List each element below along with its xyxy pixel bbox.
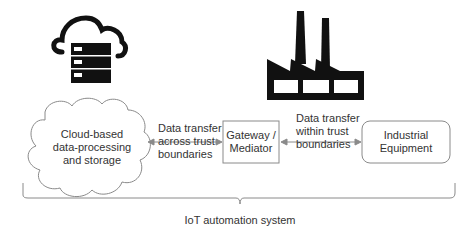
- cloud-label: Cloud-based data-processing and storage: [44, 128, 140, 167]
- factory-icon: [267, 11, 364, 100]
- cloud-server-icon: [54, 18, 126, 83]
- edge-label-within: Data transfer within trust boundaries: [296, 112, 368, 151]
- gateway-label: Gateway / Mediator: [223, 129, 279, 155]
- system-label: IoT automation system: [170, 214, 310, 227]
- equipment-label: Industrial Equipment: [362, 129, 450, 155]
- diagram-canvas: [0, 0, 476, 241]
- edge-label-across: Data transfer across trust boundaries: [158, 122, 228, 161]
